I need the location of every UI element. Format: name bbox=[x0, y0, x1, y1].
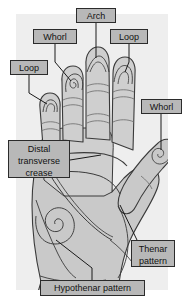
label-loop-ring[interactable]: Loop bbox=[110, 29, 148, 44]
label-loop-index[interactable]: Loop bbox=[10, 60, 48, 75]
middle-finger bbox=[62, 66, 83, 142]
label-whorl-middle[interactable]: Whorl bbox=[33, 29, 77, 44]
hand-dermatoglyphics-figure: Loop Whorl Arch Loop Whorl Distal transv… bbox=[0, 0, 184, 304]
label-arch[interactable]: Arch bbox=[76, 8, 116, 23]
label-hypothenar-pattern[interactable]: Hypothenar pattern bbox=[40, 280, 145, 296]
ring-finger bbox=[86, 47, 110, 140]
label-whorl-thumb[interactable]: Whorl bbox=[141, 99, 182, 114]
label-distal-transverse-crease[interactable]: Distal transverse crease bbox=[8, 140, 70, 178]
label-thenar-pattern[interactable]: Thenar pattern bbox=[131, 240, 175, 267]
